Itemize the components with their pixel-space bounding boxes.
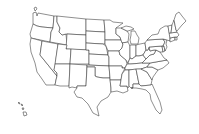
state-sd[interactable] bbox=[86, 31, 105, 44]
state-ri[interactable] bbox=[175, 37, 177, 40]
state-ak[interactable] bbox=[34, 7, 37, 11]
state-ks[interactable] bbox=[89, 54, 109, 66]
state-nd[interactable] bbox=[86, 19, 105, 32]
state-wy[interactable] bbox=[66, 34, 86, 50]
state-co[interactable] bbox=[70, 49, 89, 64]
state-ne[interactable] bbox=[86, 43, 108, 55]
states-layer bbox=[18, 7, 186, 116]
state-me[interactable] bbox=[174, 12, 186, 31]
state-nm[interactable] bbox=[69, 64, 87, 88]
state-ny[interactable] bbox=[147, 26, 170, 41]
state-fl[interactable] bbox=[131, 84, 162, 114]
us-states-map bbox=[0, 0, 199, 134]
state-hi[interactable] bbox=[18, 102, 27, 116]
state-mt[interactable] bbox=[57, 16, 86, 35]
